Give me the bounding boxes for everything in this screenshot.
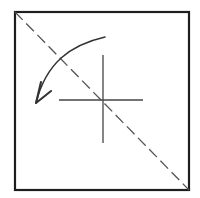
- fold-arrowhead-icon: [36, 82, 51, 103]
- valley-fold-line: [15, 12, 189, 190]
- fold-diagram-figure: [0, 0, 200, 198]
- origami-diagram: [0, 0, 200, 198]
